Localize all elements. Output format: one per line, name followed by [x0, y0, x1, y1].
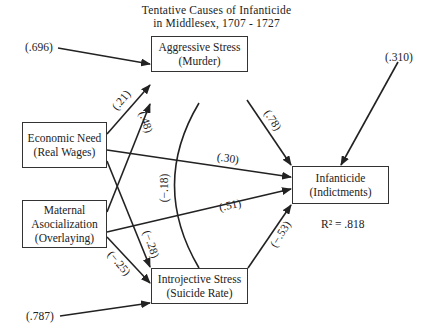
node-label: Infanticide — [316, 171, 366, 185]
node-aggressive-stress: Aggressive Stress (Murder) — [151, 36, 248, 72]
residual-label-aggressive: (.696) — [25, 41, 53, 53]
arrow-economic-infanticide — [107, 150, 291, 177]
node-sublabel: (Indictments) — [310, 185, 372, 199]
residual-label-infanticide: (.310) — [385, 51, 413, 63]
r-squared-label: R² = .818 — [321, 218, 364, 230]
node-label-2: Asocialization — [31, 217, 97, 231]
node-label: Economic Need — [28, 131, 102, 145]
node-infanticide: Infanticide (Indictments) — [292, 166, 389, 204]
node-label: Aggressive Stress — [158, 40, 240, 54]
residual-label-introjective: (.787) — [26, 310, 54, 322]
node-label: Introjective Stress — [158, 272, 241, 286]
residual-arrow-infanticide — [341, 62, 398, 165]
path-label-correlation: (−.18) — [158, 174, 170, 203]
arrow-maternal-infanticide — [107, 189, 291, 232]
node-sublabel: (Real Wages) — [34, 145, 96, 159]
correlation-curve — [175, 103, 200, 268]
node-introjective-stress: Introjective Stress (Suicide Rate) — [151, 268, 248, 304]
residual-arrow-introjective — [60, 303, 150, 316]
node-economic-need: Economic Need (Real Wages) — [22, 122, 107, 168]
node-sublabel: (Suicide Rate) — [166, 286, 232, 300]
node-sublabel: (Overlaying) — [35, 231, 94, 245]
node-sublabel: (Murder) — [178, 54, 220, 68]
residual-arrow-aggressive — [58, 48, 150, 64]
node-label: Maternal — [44, 203, 86, 217]
node-maternal-asocialization: Maternal Asocialization (Overlaying) — [22, 200, 107, 248]
